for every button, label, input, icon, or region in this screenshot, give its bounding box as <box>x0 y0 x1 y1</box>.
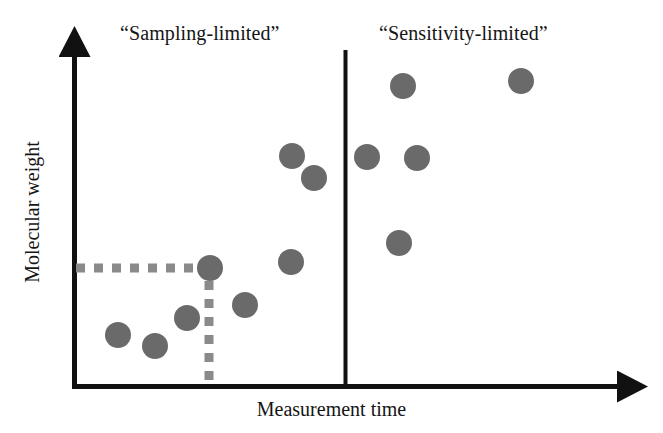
scatter-figure: “Sampling-limited” “Sensitivity-limited”… <box>0 0 663 433</box>
plot-canvas <box>0 0 663 433</box>
y-axis-title-wrapper: Molecular weight <box>10 96 54 328</box>
y-axis-title: Molecular weight <box>21 141 44 283</box>
data-point <box>354 144 380 170</box>
data-point <box>390 73 416 99</box>
data-point <box>404 145 430 171</box>
x-axis-title: Measurement time <box>0 398 663 421</box>
data-point <box>105 322 131 348</box>
data-point <box>197 255 223 281</box>
data-point <box>174 305 200 331</box>
data-point <box>301 165 327 191</box>
region-label-sensitivity-limited: “Sensitivity-limited” <box>379 22 548 45</box>
data-point <box>232 292 258 318</box>
data-point <box>142 333 168 359</box>
data-points-group <box>105 68 534 359</box>
data-point <box>508 68 534 94</box>
region-label-sampling-limited: “Sampling-limited” <box>120 22 280 45</box>
data-point <box>279 143 305 169</box>
data-point <box>386 230 412 256</box>
data-point <box>278 249 304 275</box>
